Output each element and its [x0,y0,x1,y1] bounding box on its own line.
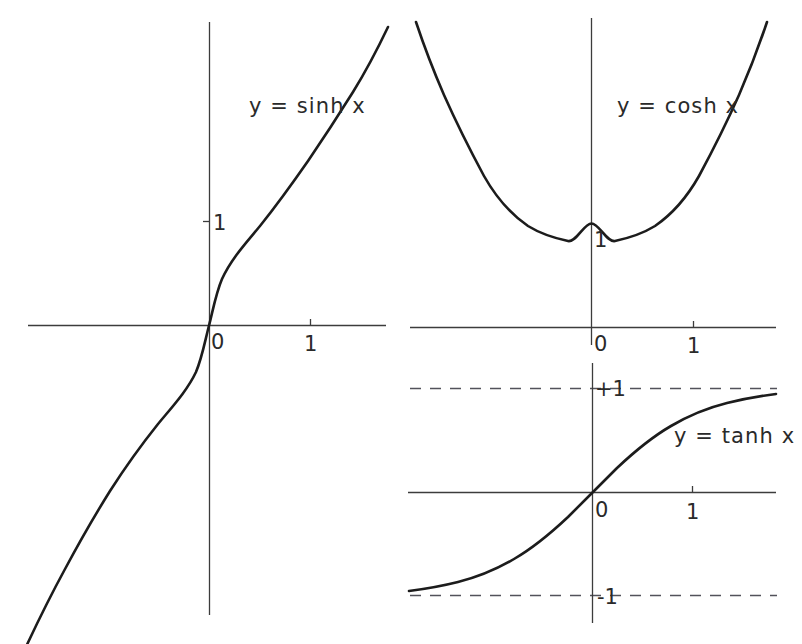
sinh-panel: 0 1 1 y = sinh x [27,22,388,644]
sinh-x-tick-label: 1 [304,332,317,356]
tanh-curve-label: y = tanh x [674,424,795,448]
sinh-curve [27,27,388,644]
tanh-origin-label: 0 [595,498,608,522]
sinh-origin-label: 0 [211,330,224,354]
hyperbolic-functions-figure: 0 1 1 y = sinh x 0 1 1 y = cosh x 0 1 [0,0,802,644]
tanh-lower-asymptote-label: -1 [597,585,618,609]
sinh-y-tick-label: 1 [213,211,226,235]
sinh-curve-label: y = sinh x [249,94,366,118]
cosh-curve-label: y = cosh x [617,94,739,118]
tanh-x-tick-label: 1 [686,500,699,524]
cosh-y-tick-label: 1 [594,228,607,252]
tanh-upper-asymptote-label: +1 [595,377,626,401]
cosh-panel: 0 1 1 y = cosh x [410,18,776,358]
tanh-panel: 0 1 +1 -1 y = tanh x [408,363,795,623]
cosh-x-tick-label: 1 [687,334,700,358]
cosh-origin-label: 0 [594,332,607,356]
